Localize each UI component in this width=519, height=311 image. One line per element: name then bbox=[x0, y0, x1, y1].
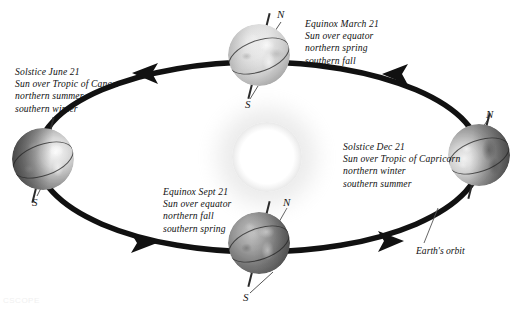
note-dec-line-2: Sun over Tropic of Capricorn bbox=[343, 153, 460, 165]
pole-label-march-north: N bbox=[277, 8, 284, 20]
note-june-line-4: southern winter bbox=[15, 103, 120, 115]
note-june-line-2: Sun over Tropic of Cancer bbox=[15, 78, 120, 90]
orbit-label-leader-line bbox=[424, 208, 438, 243]
note-march-line-3: northern spring bbox=[305, 42, 379, 54]
note-dec-line-1: Solstice Dec 21 bbox=[343, 141, 460, 153]
note-december-solstice: Solstice Dec 21 Sun over Tropic of Capri… bbox=[343, 141, 460, 190]
note-june-line-3: northern summer bbox=[15, 90, 120, 102]
note-dec-line-4: southern summer bbox=[343, 178, 460, 190]
orbit-label: Earth's orbit bbox=[416, 245, 465, 256]
note-june-line-1: Solstice June 21 bbox=[15, 66, 120, 78]
note-sept-line-1: Equinox Sept 21 bbox=[163, 186, 231, 198]
note-march-line-4: southern fall bbox=[305, 55, 379, 67]
pole-label-sept-south: S bbox=[243, 291, 249, 303]
pole-label-june-south: S bbox=[32, 196, 38, 208]
earth-globe-june-solstice bbox=[12, 128, 74, 190]
sun-core bbox=[241, 131, 293, 183]
note-sept-line-3: northern fall bbox=[163, 210, 231, 222]
sun-graphic bbox=[232, 122, 302, 192]
pole-label-sept-north: N bbox=[283, 196, 290, 208]
leader-sept-s bbox=[250, 272, 273, 293]
note-march-equinox: Equinox March 21 Sun over equator northe… bbox=[305, 18, 379, 67]
earth-globe-september-equinox bbox=[228, 212, 290, 274]
note-june-solstice: Solstice June 21 Sun over Tropic of Canc… bbox=[15, 66, 120, 115]
diagram-canvas: N S S N S N Equinox March 21 Sun over eq… bbox=[0, 0, 519, 311]
note-march-line-1: Equinox March 21 bbox=[305, 18, 379, 30]
watermark-text: CSCOPE bbox=[3, 296, 40, 305]
pole-label-march-south: S bbox=[245, 98, 251, 110]
note-sept-line-4: southern spring bbox=[163, 223, 231, 235]
earth-globe-march-equinox bbox=[228, 24, 290, 86]
pole-label-dec-north: N bbox=[486, 108, 493, 120]
note-sept-line-2: Sun over equator bbox=[163, 198, 231, 210]
note-dec-line-3: northern winter bbox=[343, 165, 460, 177]
note-september-equinox: Equinox Sept 21 Sun over equator norther… bbox=[163, 186, 231, 235]
note-march-line-2: Sun over equator bbox=[305, 30, 379, 42]
